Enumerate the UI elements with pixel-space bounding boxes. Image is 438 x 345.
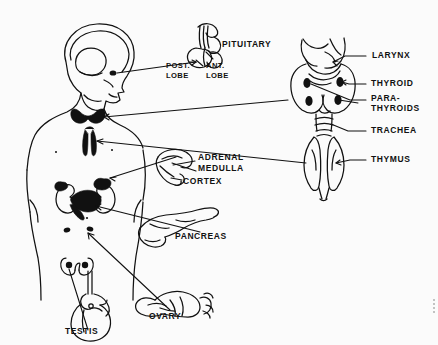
label-post-lobe-line2: LOBE [166, 72, 189, 81]
label-larynx: LARYNX [372, 51, 410, 61]
ovaries-in-body [63, 226, 94, 234]
neck-detail [291, 38, 355, 201]
label-ovary: OVARY [149, 312, 181, 322]
page-edge-mark [433, 299, 435, 315]
label-thymus: THYMUS [371, 155, 411, 165]
label-pancreas: PANCREAS [175, 232, 227, 242]
label-post-lobe-line1: POST. [166, 62, 190, 71]
label-adrenal: ADRENAL [198, 153, 244, 163]
label-cortex: CORTEX [183, 177, 222, 187]
thyroid-in-body [71, 109, 105, 123]
pituitary-in-head [110, 70, 117, 75]
label-parathyroids-line2: THYROIDS [371, 104, 420, 114]
label-thyroid: THYROID [371, 79, 413, 89]
head-outline [65, 24, 134, 111]
label-pituitary: PITUITARY [222, 40, 271, 50]
pancreas-in-body [70, 190, 101, 220]
adrenals-in-body [55, 178, 111, 191]
endocrine-system-diagram: PITUITARY POST. LOBE ANT. LOBE LARYNX TH… [0, 0, 438, 345]
label-medulla: MEDULLA [198, 164, 244, 174]
label-trachea: TRACHEA [371, 126, 417, 136]
thymus-in-body [83, 127, 97, 156]
label-testis: TESTIS [65, 327, 98, 337]
label-ant-lobe-line1: ANT. [206, 62, 224, 71]
label-ant-lobe-line2: LOBE [206, 72, 229, 81]
